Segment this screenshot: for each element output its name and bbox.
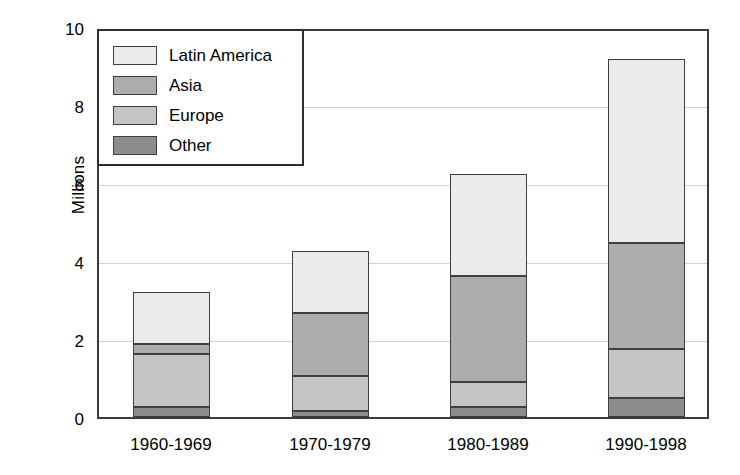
- bar-segment-1980-1989-other: [450, 407, 527, 417]
- y-tick-2: 2: [36, 333, 84, 350]
- legend-item-asia: Asia: [113, 70, 302, 100]
- legend-swatch-europe-icon: [113, 106, 157, 125]
- bar-segment-1990-1998-latin-america: [608, 59, 685, 244]
- bar-segment-1970-1979-latin-america: [292, 251, 369, 313]
- bar-segment-1990-1998-other: [608, 398, 685, 417]
- stacked-bar-chart-figure: Millions 10 8 6 4 2 0 1960-1969 1970-197…: [0, 0, 740, 475]
- bar-1980-1989: [450, 174, 527, 417]
- bar-segment-1980-1989-europe: [450, 382, 527, 407]
- y-axis-title: Millions: [69, 120, 89, 250]
- legend-label-other: Other: [169, 137, 212, 154]
- bar-1990-1998: [608, 59, 685, 417]
- y-tick-4: 4: [36, 255, 84, 272]
- x-label-1990-1998: 1990-1998: [571, 436, 721, 453]
- legend-label-europe: Europe: [169, 107, 224, 124]
- x-label-1970-1979: 1970-1979: [255, 436, 405, 453]
- bar-segment-1990-1998-asia: [608, 243, 685, 349]
- legend-item-other: Other: [113, 130, 302, 160]
- bar-segment-1960-1969-asia: [133, 344, 210, 355]
- legend-item-europe: Europe: [113, 100, 302, 130]
- bar-segment-1970-1979-asia: [292, 313, 369, 377]
- bar-segment-1990-1998-europe: [608, 349, 685, 397]
- x-label-1980-1989: 1980-1989: [413, 436, 563, 453]
- bar-segment-1960-1969-other: [133, 407, 210, 417]
- legend-label-latin-america: Latin America: [169, 47, 272, 64]
- bar-1960-1969: [133, 292, 210, 417]
- bar-segment-1970-1979-europe: [292, 376, 369, 411]
- legend-swatch-latin-america-icon: [113, 46, 157, 65]
- y-tick-8: 8: [36, 99, 84, 116]
- bar-segment-1960-1969-latin-america: [133, 292, 210, 344]
- bar-segment-1970-1979-other: [292, 411, 369, 417]
- chart-legend: Latin America Asia Europe Other: [97, 29, 304, 166]
- bar-segment-1960-1969-europe: [133, 354, 210, 406]
- bar-segment-1980-1989-asia: [450, 276, 527, 382]
- legend-swatch-asia-icon: [113, 76, 157, 95]
- x-label-1960-1969: 1960-1969: [96, 436, 246, 453]
- legend-label-asia: Asia: [169, 77, 202, 94]
- y-tick-0: 0: [36, 411, 84, 428]
- y-tick-10: 10: [36, 21, 84, 38]
- bar-1970-1979: [292, 251, 369, 417]
- bar-segment-1980-1989-latin-america: [450, 174, 527, 276]
- legend-item-latin-america: Latin America: [113, 40, 302, 70]
- legend-swatch-other-icon: [113, 136, 157, 155]
